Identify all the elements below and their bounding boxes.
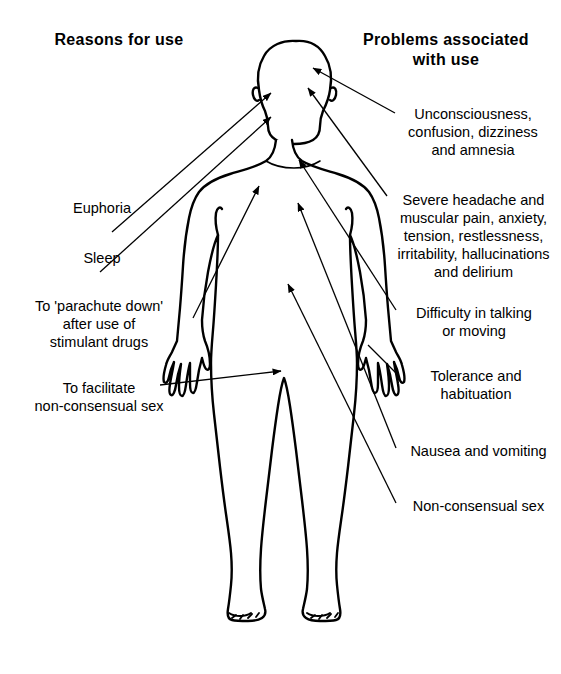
- heading-reasons-for-use: Reasons for use: [14, 30, 224, 50]
- label-non-consensual-sex: Non-consensual sex: [396, 498, 561, 516]
- label-difficulty-talking-moving: Difficulty in talking or moving: [396, 305, 552, 341]
- heading-problems-associated-with-use: Problems associated with use: [340, 30, 552, 70]
- label-euphoria: Euphoria: [22, 200, 182, 218]
- label-tolerance-habituation: Tolerance and habituation: [398, 368, 554, 404]
- head-outline: [258, 41, 331, 144]
- label-nausea-vomiting: Nausea and vomiting: [396, 443, 561, 461]
- label-sleep: Sleep: [22, 250, 182, 268]
- label-facilitate-non-consensual-sex: To facilitate non-consensual sex: [6, 380, 192, 416]
- label-severe-headache: Severe headache and muscular pain, anxie…: [386, 192, 561, 282]
- human-body-outline: [164, 41, 405, 621]
- label-parachute-down: To 'parachute down' after use of stimula…: [6, 298, 192, 352]
- drug-effects-diagram: Reasons for use Problems associated with…: [0, 0, 561, 674]
- label-unconsciousness: Unconsciousness, confusion, dizziness an…: [394, 106, 552, 160]
